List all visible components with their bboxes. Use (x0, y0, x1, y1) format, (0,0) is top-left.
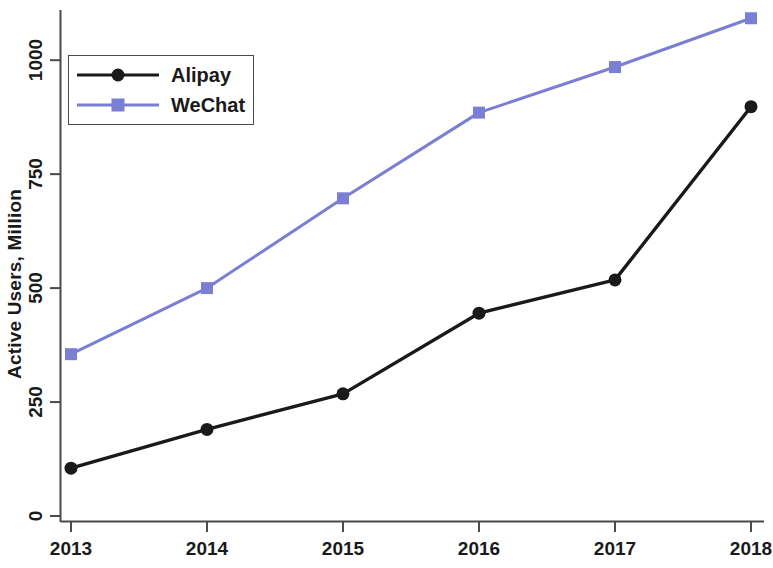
legend-key-wechat (77, 93, 159, 117)
x-axis-tick-label: 2014 (186, 538, 228, 560)
x-axis-ticks (71, 522, 751, 532)
legend-item-wechat: WeChat (69, 91, 253, 119)
data-point-alipay (201, 423, 214, 436)
data-point-wechat (65, 348, 77, 360)
data-point-wechat (745, 12, 757, 24)
legend: Alipay WeChat (68, 55, 254, 125)
square-marker-icon (112, 99, 125, 112)
data-point-wechat (337, 192, 349, 204)
series-line-alipay (71, 107, 751, 468)
y-axis-ticks (50, 60, 60, 516)
x-axis-tick-label: 2017 (594, 538, 636, 560)
legend-key-alipay (77, 63, 159, 87)
data-point-alipay (609, 273, 622, 286)
data-point-alipay (65, 462, 78, 475)
data-point-alipay (473, 307, 486, 320)
x-axis-tick-label: 2015 (322, 538, 364, 560)
data-point-alipay (337, 387, 350, 400)
legend-label-alipay: Alipay (171, 64, 231, 87)
x-axis-tick-label: 2016 (458, 538, 500, 560)
circle-marker-icon (112, 69, 125, 82)
line-chart: Active Users, Million 02505007501000 201… (0, 0, 773, 568)
data-point-wechat (201, 282, 213, 294)
data-point-wechat (473, 107, 485, 119)
data-point-alipay (745, 100, 758, 113)
data-point-wechat (609, 61, 621, 73)
legend-label-wechat: WeChat (171, 94, 245, 117)
x-axis-tick-label: 2018 (730, 538, 772, 560)
x-axis-tick-label: 2013 (50, 538, 92, 560)
legend-item-alipay: Alipay (69, 61, 253, 89)
